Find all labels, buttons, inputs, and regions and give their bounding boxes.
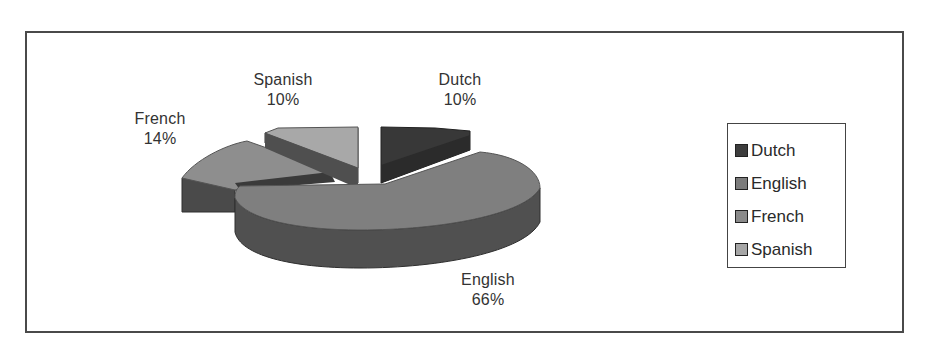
label-spanish-pct: 10% bbox=[238, 90, 328, 110]
label-english: English 66% bbox=[448, 270, 528, 310]
legend-swatch-french bbox=[735, 210, 748, 223]
label-french: French 14% bbox=[120, 109, 200, 149]
label-english-name: English bbox=[448, 270, 528, 290]
legend-label-spanish: Spanish bbox=[751, 240, 812, 260]
legend-item-spanish: Spanish bbox=[735, 233, 845, 266]
legend-item-dutch: Dutch bbox=[735, 134, 845, 167]
label-spanish-name: Spanish bbox=[238, 70, 328, 90]
legend-label-english: English bbox=[751, 174, 807, 194]
label-french-pct: 14% bbox=[120, 129, 200, 149]
chart-legend: Dutch English French Spanish bbox=[727, 123, 846, 268]
label-french-name: French bbox=[120, 109, 200, 129]
legend-label-french: French bbox=[751, 207, 804, 227]
label-dutch-pct: 10% bbox=[420, 90, 500, 110]
legend-swatch-dutch bbox=[735, 144, 748, 157]
legend-swatch-spanish bbox=[735, 243, 748, 256]
legend-item-french: French bbox=[735, 200, 845, 233]
label-english-pct: 66% bbox=[448, 290, 528, 310]
label-dutch: Dutch 10% bbox=[420, 70, 500, 110]
legend-item-english: English bbox=[735, 167, 845, 200]
legend-swatch-english bbox=[735, 177, 748, 190]
label-dutch-name: Dutch bbox=[420, 70, 500, 90]
label-spanish: Spanish 10% bbox=[238, 70, 328, 110]
legend-label-dutch: Dutch bbox=[751, 141, 795, 161]
